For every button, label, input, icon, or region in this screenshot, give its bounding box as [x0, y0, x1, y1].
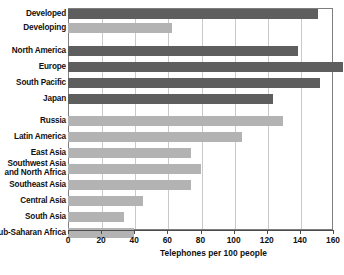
tick-mark-20 — [101, 231, 102, 234]
tick-label: 20 — [86, 235, 116, 245]
bar-label: Japan — [0, 94, 66, 103]
bar-row[interactable]: Russia — [0, 116, 344, 127]
telephones-bar-chart: DevelopedDevelopingNorth AmericaEuropeSo… — [0, 0, 344, 275]
bar[interactable] — [68, 62, 343, 72]
bar-row[interactable]: Southwest Asiaand North Africa — [0, 164, 344, 175]
bar[interactable] — [68, 164, 201, 174]
tick-mark-40 — [134, 231, 135, 234]
bar-row[interactable]: Europe — [0, 62, 344, 73]
tick-mark-100 — [234, 231, 235, 234]
bar[interactable] — [68, 23, 172, 33]
tick-mark-160 — [333, 231, 334, 234]
bar-label: Central Asia — [0, 196, 66, 205]
bar[interactable] — [68, 148, 191, 158]
tick-mark-0 — [68, 231, 69, 234]
bar-row[interactable]: Central Asia — [0, 196, 344, 207]
bar-row[interactable]: Southeast Asia — [0, 180, 344, 191]
bar[interactable] — [68, 46, 298, 56]
bar-label: East Asia — [0, 148, 66, 157]
tick-mark-120 — [267, 231, 268, 234]
tick-mark-140 — [300, 231, 301, 234]
tick-label: 100 — [219, 235, 249, 245]
bar[interactable] — [68, 78, 320, 88]
tick-label: 0 — [53, 235, 83, 245]
bar-row[interactable]: East Asia — [0, 148, 344, 159]
bar[interactable] — [68, 180, 191, 190]
bar-label: South Pacific — [0, 78, 66, 87]
bar-label: South Asia — [0, 212, 66, 221]
bar-row[interactable]: Japan — [0, 94, 344, 105]
tick-label: 40 — [119, 235, 149, 245]
bar-label: Russia — [0, 116, 66, 125]
bar-row[interactable]: South Pacific — [0, 78, 344, 89]
bar-label: North America — [0, 46, 66, 55]
bar-row[interactable]: Developed — [0, 9, 344, 20]
bar-label: Latin America — [0, 132, 66, 141]
bar[interactable] — [68, 212, 124, 222]
tick-label: 120 — [252, 235, 282, 245]
bar-label: Developed — [0, 9, 66, 18]
bar[interactable] — [68, 9, 318, 19]
tick-mark-60 — [167, 231, 168, 234]
bar-row[interactable]: Developing — [0, 23, 344, 34]
bar-label: Europe — [0, 62, 66, 71]
bar[interactable] — [68, 116, 283, 126]
bar-row[interactable]: Latin America — [0, 132, 344, 143]
bar-rows: DevelopedDevelopingNorth AmericaEuropeSo… — [0, 8, 344, 230]
bar-row[interactable]: South Asia — [0, 212, 344, 223]
bar-row[interactable]: North America — [0, 46, 344, 57]
bar[interactable] — [68, 196, 143, 206]
bar[interactable] — [68, 132, 242, 142]
bar-label: Developing — [0, 23, 66, 32]
x-axis-title: Telephones per 100 people — [160, 248, 267, 259]
bar[interactable] — [68, 94, 273, 104]
tick-label: 160 — [318, 235, 344, 245]
tick-label: 80 — [186, 235, 216, 245]
tick-label: 140 — [285, 235, 315, 245]
bar-label: Southeast Asia — [0, 180, 66, 189]
tick-label: 60 — [152, 235, 182, 245]
bar-label: Southwest Asiaand North Africa — [0, 160, 66, 177]
tick-mark-80 — [201, 231, 202, 234]
